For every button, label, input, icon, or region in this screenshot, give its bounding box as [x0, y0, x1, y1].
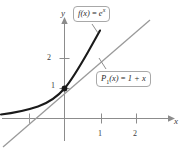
polynomial-callout-expression: 1 + x [128, 73, 146, 83]
y-tick-label-2: 2 [47, 54, 51, 62]
function-callout-leader [92, 24, 98, 33]
y-tick-label-1: 1 [51, 82, 55, 90]
exponential-curve [1, 31, 100, 115]
y-axis-label: y [61, 9, 65, 18]
x-tick-label-2: 2 [133, 130, 137, 138]
y-axis-arrowhead [61, 17, 67, 24]
tangency-point-marker [62, 86, 68, 92]
exponential-tangent-figure: y x 2 1 1 2 f(x) = ex P1(x) = 1 + x [0, 0, 186, 148]
polynomial-callout-arg: (x) [109, 73, 118, 83]
function-callout-exponent: x [103, 7, 106, 13]
plot-area [0, 0, 186, 148]
function-callout: f(x) = ex [73, 6, 110, 22]
polynomial-callout: P1(x) = 1 + x [96, 71, 151, 87]
function-callout-equals: = [90, 8, 99, 18]
x-axis-label: x [174, 117, 178, 126]
x-tick-label-1: 1 [98, 130, 102, 138]
function-callout-arg: (x) [80, 8, 89, 18]
polynomial-callout-equals: = [119, 73, 128, 83]
